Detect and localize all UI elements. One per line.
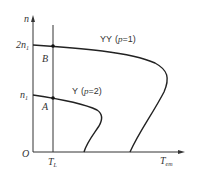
point-b-label: B: [42, 53, 48, 64]
point-a-marker: [51, 96, 55, 100]
tick-n1: n1: [20, 89, 28, 101]
origin-label: O: [22, 148, 29, 159]
y-axis-label: n: [24, 13, 29, 24]
point-a-label: A: [41, 101, 49, 112]
x-axis-arrow-icon: [178, 150, 185, 154]
tick-2n1: 2n1: [16, 39, 29, 51]
y-curve-label: Y(p=2): [72, 86, 102, 96]
point-b-marker: [51, 44, 55, 48]
yy-curve-label: YY(p=1): [100, 34, 136, 44]
y-axis-arrow-icon: [31, 15, 35, 22]
tick-tl: TL: [48, 156, 58, 168]
x-axis-label: Tem: [160, 155, 173, 167]
speed-torque-diagram: n O Tem 2n1 n1 TL B A YY(p=1) Y(p=2): [0, 0, 203, 171]
